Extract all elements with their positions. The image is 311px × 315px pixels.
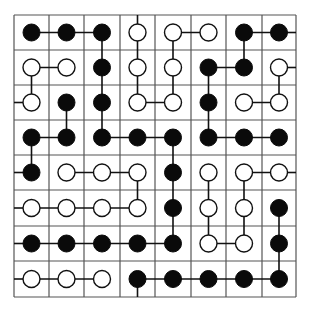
white-pearl-cell[interactable] [236, 235, 253, 252]
black-pearl-cell[interactable] [23, 129, 40, 146]
white-pearl-cell[interactable] [200, 164, 217, 181]
white-pearl-cell[interactable] [165, 59, 182, 76]
black-pearl-cell[interactable] [271, 200, 288, 217]
white-pearl-cell[interactable] [271, 94, 288, 111]
black-pearl-cell[interactable] [200, 271, 217, 288]
white-pearl-cell[interactable] [236, 200, 253, 217]
white-pearl-cell[interactable] [94, 164, 111, 181]
black-pearl-cell[interactable] [236, 129, 253, 146]
black-pearl-cell[interactable] [271, 129, 288, 146]
white-pearl-cell[interactable] [94, 271, 111, 288]
white-pearl-cell[interactable] [129, 164, 146, 181]
black-pearl-cell[interactable] [58, 94, 75, 111]
black-pearl-cell[interactable] [58, 235, 75, 252]
white-pearl-cell[interactable] [94, 200, 111, 217]
black-pearl-cell[interactable] [23, 235, 40, 252]
black-pearl-cell[interactable] [236, 271, 253, 288]
black-pearl-cell[interactable] [94, 129, 111, 146]
white-pearl-cell[interactable] [58, 59, 75, 76]
white-pearl-cell[interactable] [236, 164, 253, 181]
white-pearl-cell[interactable] [129, 24, 146, 41]
black-pearl-cell[interactable] [200, 94, 217, 111]
white-pearl-cell[interactable] [129, 59, 146, 76]
white-pearl-cell[interactable] [23, 94, 40, 111]
black-pearl-cell[interactable] [94, 94, 111, 111]
grid-lines [14, 15, 296, 297]
white-pearl-cell[interactable] [200, 24, 217, 41]
white-pearl-cell[interactable] [271, 164, 288, 181]
black-pearl-cell[interactable] [23, 24, 40, 41]
black-pearl-cell[interactable] [58, 129, 75, 146]
black-pearl-cell[interactable] [200, 59, 217, 76]
black-pearl-cell[interactable] [129, 129, 146, 146]
black-pearl-cell[interactable] [236, 59, 253, 76]
black-pearl-cell[interactable] [165, 235, 182, 252]
black-pearl-cell[interactable] [94, 59, 111, 76]
white-pearl-cell[interactable] [129, 94, 146, 111]
black-pearl-cell[interactable] [271, 235, 288, 252]
white-pearl-cell[interactable] [23, 59, 40, 76]
white-pearl-cell[interactable] [236, 94, 253, 111]
black-pearl-cell[interactable] [129, 235, 146, 252]
black-pearl-cell[interactable] [165, 200, 182, 217]
black-pearl-cell[interactable] [271, 24, 288, 41]
black-pearl-cell[interactable] [236, 24, 253, 41]
black-pearl-cell[interactable] [94, 24, 111, 41]
black-pearl-cell[interactable] [58, 24, 75, 41]
puzzle-board[interactable] [0, 0, 311, 315]
white-pearl-cell[interactable] [58, 164, 75, 181]
black-pearl-cell[interactable] [94, 235, 111, 252]
black-pearl-cell[interactable] [165, 164, 182, 181]
black-pearl-cell[interactable] [129, 271, 146, 288]
white-pearl-cell[interactable] [200, 235, 217, 252]
black-pearl-cell[interactable] [200, 129, 217, 146]
black-pearl-cell[interactable] [165, 271, 182, 288]
black-pearl-cell[interactable] [271, 271, 288, 288]
white-pearl-cell[interactable] [58, 271, 75, 288]
white-pearl-cell[interactable] [129, 200, 146, 217]
black-pearl-cell[interactable] [23, 164, 40, 181]
black-pearl-cell[interactable] [165, 129, 182, 146]
white-pearl-cell[interactable] [165, 24, 182, 41]
white-pearl-cell[interactable] [58, 200, 75, 217]
white-pearl-cell[interactable] [200, 200, 217, 217]
white-pearl-cell[interactable] [23, 271, 40, 288]
white-pearl-cell[interactable] [271, 59, 288, 76]
white-pearl-cell[interactable] [165, 94, 182, 111]
white-pearl-cell[interactable] [23, 200, 40, 217]
